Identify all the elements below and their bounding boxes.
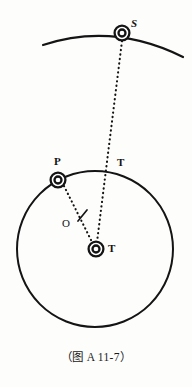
figure-caption: （图 A 11-7） — [0, 348, 192, 364]
label-point-o: O — [62, 218, 70, 229]
line-s-to-t-center — [97, 41, 122, 242]
point-p-marker — [51, 173, 66, 188]
label-point-t-center: T — [108, 243, 115, 254]
line-p-to-t-center — [64, 186, 92, 242]
upper-arc — [43, 36, 183, 57]
label-point-s: S — [131, 18, 137, 29]
point-t-center-marker — [89, 242, 104, 257]
label-point-p: P — [54, 156, 61, 167]
angle-tick-icon — [78, 210, 87, 221]
label-point-t-upper: T — [117, 157, 124, 168]
point-s-marker — [115, 26, 130, 41]
figure-drawing — [0, 0, 192, 387]
figure-container: S P T O T （图 A 11-7） — [0, 0, 192, 387]
